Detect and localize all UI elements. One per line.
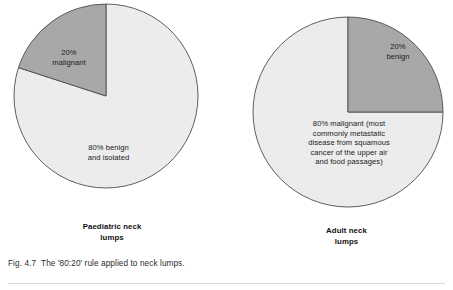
- chart-title-adult: Adult neck lumps: [240, 226, 453, 247]
- pie-chart-paediatric: [6, 0, 218, 218]
- figure-80-20-rule: 20% malignant 80% benign and isolated Pa…: [0, 0, 453, 290]
- chart-title-paediatric: Paediatric neck lumps: [6, 222, 218, 243]
- pie-wrap-adult: 20% benign 80% malignant (most commonly …: [240, 0, 453, 218]
- bottom-divider: [8, 283, 445, 284]
- figure-number: Fig. 4.7: [8, 259, 36, 268]
- charts-row: 20% malignant 80% benign and isolated Pa…: [0, 0, 453, 255]
- pie-wrap-paediatric: 20% malignant 80% benign and isolated: [6, 0, 218, 218]
- chart-paediatric-neck-lumps: 20% malignant 80% benign and isolated Pa…: [6, 0, 218, 218]
- figure-caption: Fig. 4.7The '80:20' rule applied to neck…: [8, 258, 438, 269]
- chart-adult-neck-lumps: 20% benign 80% malignant (most commonly …: [240, 0, 453, 218]
- pie-chart-adult: [240, 0, 453, 218]
- figure-caption-text: The '80:20' rule applied to neck lumps.: [41, 259, 185, 268]
- pie-slice-benign: [348, 17, 443, 112]
